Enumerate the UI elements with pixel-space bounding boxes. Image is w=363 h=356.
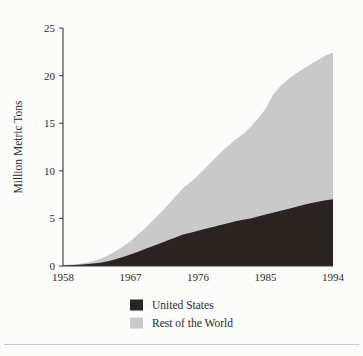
x-tick-label: 1985	[255, 271, 278, 283]
footer-divider	[4, 344, 359, 345]
y-tick-label: 10	[44, 165, 56, 177]
y-axis-ticks: 0510152025	[44, 22, 63, 272]
plot-area	[63, 53, 333, 266]
y-tick-label: 15	[44, 117, 56, 129]
x-tick-label: 1994	[322, 271, 345, 283]
chart-legend: United StatesRest of the World	[130, 299, 233, 329]
y-tick-label: 20	[44, 70, 56, 82]
x-tick-label: 1967	[120, 271, 143, 283]
y-axis-title: Million Metric Tons	[12, 100, 24, 193]
figure-page: 0510152025 19581967197619851994 Million …	[0, 0, 363, 356]
legend-label: Rest of the World	[152, 317, 233, 329]
legend-swatch	[130, 318, 143, 329]
y-tick-label: 25	[44, 22, 56, 34]
legend-swatch	[130, 300, 143, 311]
x-axis-ticks: 19581967197619851994	[52, 271, 345, 283]
x-tick-label: 1976	[187, 271, 210, 283]
stacked-area-chart: 0510152025 19581967197619851994 Million …	[0, 0, 363, 356]
x-tick-label: 1958	[52, 271, 75, 283]
chart-canvas: 0510152025 19581967197619851994 Million …	[0, 0, 363, 356]
legend-label: United States	[152, 299, 214, 311]
y-tick-label: 5	[50, 212, 56, 224]
